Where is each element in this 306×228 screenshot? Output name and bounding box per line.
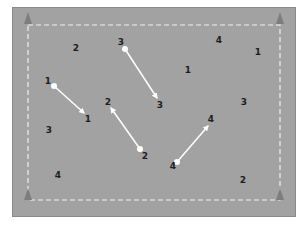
player-label: 4 — [208, 115, 214, 124]
player-label: 1 — [85, 115, 91, 124]
cone-top-left-icon — [24, 12, 32, 24]
pass-arrow-4 — [177, 126, 208, 162]
player-label: 3 — [157, 101, 163, 110]
player-label: 4 — [170, 162, 176, 171]
pass-arrow-1 — [54, 86, 84, 113]
player-label: 2 — [240, 176, 246, 185]
cone-bottom-right-icon — [276, 188, 284, 200]
pass-arrow-2 — [111, 108, 140, 149]
player-label: 3 — [118, 38, 124, 47]
cone-bottom-left-icon — [24, 188, 32, 200]
ball-icon — [122, 46, 128, 52]
player-label: 2 — [105, 98, 111, 107]
player-label: 4 — [216, 36, 222, 45]
player-label: 1 — [255, 48, 261, 57]
player-label: 1 — [185, 66, 191, 75]
player-label: 3 — [241, 98, 247, 107]
cone-top-right-icon — [276, 12, 284, 24]
player-label: 3 — [46, 126, 52, 135]
player-label: 2 — [142, 152, 148, 161]
player-label: 1 — [45, 77, 51, 86]
ball-icon — [51, 83, 57, 89]
player-label: 2 — [73, 44, 79, 53]
pass-arrow-3 — [125, 49, 157, 98]
player-label: 4 — [55, 171, 61, 180]
drill-diagram — [0, 0, 306, 228]
